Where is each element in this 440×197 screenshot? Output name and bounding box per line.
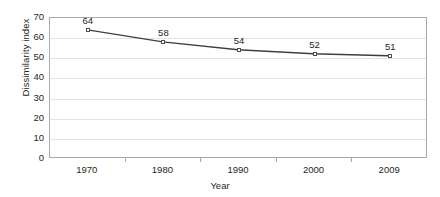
y-tick-label: 20 [22,113,44,123]
data-point-label: 58 [158,28,169,38]
data-point-marker [86,28,90,32]
y-tick-label: 0 [22,153,44,163]
y-axis-tick-labels: 70 60 50 40 30 20 10 0 [22,17,44,158]
y-tick-label: 70 [22,12,44,22]
data-points: 6458545251 [50,18,426,157]
data-point-label: 64 [83,16,94,26]
x-tick-label: 1970 [76,165,97,175]
y-tick-label: 10 [22,133,44,143]
x-tick-label: 1980 [152,165,173,175]
data-point-label: 52 [309,40,320,50]
x-tick-label: 1990 [227,165,248,175]
data-point-marker [237,48,241,52]
data-point-marker [313,52,317,56]
x-tick-label: 2000 [303,165,324,175]
data-point-label: 51 [385,42,396,52]
x-axis-title: Year [0,180,440,191]
plot-area: 6458545251 [49,17,427,158]
y-tick-label: 40 [22,73,44,83]
y-tick-label: 60 [22,32,44,42]
y-tick-label: 30 [22,93,44,103]
data-point-marker [161,40,165,44]
data-point-marker [388,54,392,58]
data-point-label: 54 [234,36,245,46]
x-tick-mark [351,158,352,162]
x-tick-mark [276,158,277,162]
x-tick-mark [125,158,126,162]
line-chart: Dissimilarity index 70 60 50 40 30 20 10… [0,0,440,197]
x-tick-mark [200,158,201,162]
y-tick-label: 50 [22,53,44,63]
x-tick-label: 2009 [379,165,400,175]
